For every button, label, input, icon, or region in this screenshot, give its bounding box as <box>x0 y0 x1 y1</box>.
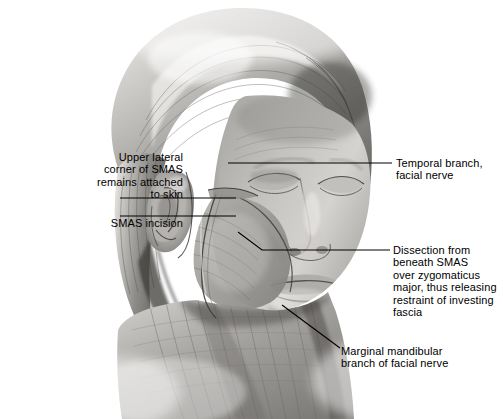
label-temporal-branch: Temporal branch, facial nerve <box>396 157 503 182</box>
illustration-canvas: Upper lateral corner of SMAS remains att… <box>0 0 503 419</box>
label-upper-lateral-corner: Upper lateral corner of SMAS remains att… <box>23 151 183 201</box>
label-dissection-beneath-smas: Dissection from beneath SMAS over zygoma… <box>393 244 503 318</box>
eye-far <box>248 169 300 194</box>
label-smas-incision: SMAS incision <box>23 217 183 229</box>
label-marginal-mandibular-branch: Marginal mandibular branch of facial ner… <box>341 345 503 370</box>
